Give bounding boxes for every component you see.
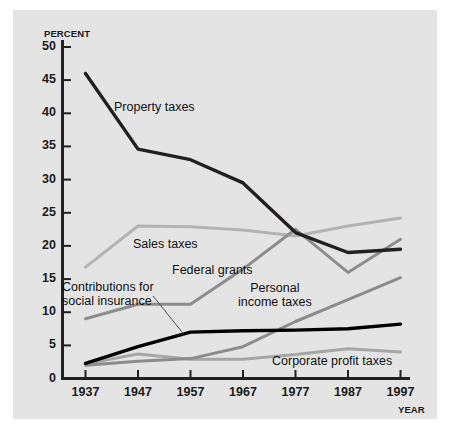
y-tick-label: 5 bbox=[30, 337, 56, 351]
series-label-contributions: Contributions for social insurance bbox=[62, 280, 154, 308]
y-tick-label: 40 bbox=[30, 105, 56, 119]
data-series-group bbox=[86, 74, 401, 366]
x-tick-label: 1967 bbox=[220, 385, 266, 399]
x-tick-label: 1937 bbox=[63, 385, 109, 399]
x-axis-title: YEAR bbox=[398, 404, 425, 415]
contributions-leader-line bbox=[153, 296, 182, 332]
y-tick-label: 20 bbox=[30, 238, 56, 252]
series-label-sales: Sales taxes bbox=[133, 237, 198, 251]
y-tick-label: 30 bbox=[30, 172, 56, 186]
x-tick-label: 1997 bbox=[378, 385, 424, 399]
y-tick-label: 0 bbox=[30, 371, 56, 385]
x-tick-label: 1957 bbox=[168, 385, 214, 399]
series-label-property: Property taxes bbox=[114, 100, 195, 114]
series-label-corporate: Corporate profit taxes bbox=[272, 354, 392, 368]
y-tick-label: 10 bbox=[30, 304, 56, 318]
y-axis-title: PERCENT bbox=[44, 28, 90, 39]
y-tick-label: 15 bbox=[30, 271, 56, 285]
y-tick-label: 25 bbox=[30, 205, 56, 219]
x-tick-label: 1987 bbox=[325, 385, 371, 399]
y-tick-label: 50 bbox=[30, 39, 56, 53]
chart-figure: PERCENT YEAR 05101520253035404550 193719… bbox=[0, 0, 451, 437]
x-tick-label: 1947 bbox=[115, 385, 161, 399]
y-tick-label: 45 bbox=[30, 72, 56, 86]
series-label-federal-grants: Federal grants bbox=[172, 263, 253, 277]
line-chart-svg bbox=[0, 0, 451, 437]
series-label-personal-income: Personal income taxes bbox=[238, 281, 312, 309]
y-tick-label: 35 bbox=[30, 138, 56, 152]
x-tick-label: 1977 bbox=[273, 385, 319, 399]
